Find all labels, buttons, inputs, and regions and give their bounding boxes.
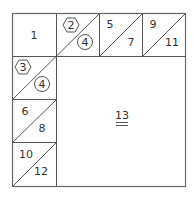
- cell-6-label: 6: [22, 105, 29, 118]
- cell-5-label: 5: [107, 18, 114, 31]
- diagonal: [13, 100, 57, 143]
- cell-9-label: 9: [150, 18, 157, 31]
- cell-3-label: 3: [20, 61, 27, 74]
- cell-2-label: 2: [68, 19, 75, 32]
- cell-8-label: 8: [39, 122, 46, 135]
- cell-1-label: 1: [31, 29, 38, 42]
- cell-12-label: 12: [34, 165, 48, 178]
- cell-7-label: 7: [128, 36, 135, 49]
- cell-4b-label: 4: [39, 78, 46, 91]
- cell-11-label: 11: [165, 36, 179, 49]
- cell-10-label: 10: [19, 148, 33, 161]
- cell-4a-label: 4: [82, 36, 89, 49]
- cell-13-label: 13: [115, 109, 129, 122]
- grid-diagram: 1 2 4 3 4 5 7 9 11 6 8 10 12 13: [0, 0, 194, 201]
